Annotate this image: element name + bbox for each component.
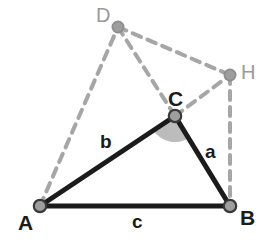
vertex-label-c: C xyxy=(168,88,183,109)
vertex-label-a: A xyxy=(18,212,33,233)
side-label-b: b xyxy=(100,132,112,151)
figure-canvas xyxy=(0,0,269,239)
vertex-label-d: D xyxy=(96,5,110,25)
geometry-diagram: A B C D H b a c xyxy=(0,0,269,239)
vertex-label-b: B xyxy=(240,207,255,228)
side-label-c: c xyxy=(132,212,143,231)
dashed-edge-d-h xyxy=(118,27,230,75)
solid-edges-group xyxy=(40,116,230,206)
side-label-a: a xyxy=(205,142,216,161)
dashed-edges-group xyxy=(40,27,230,206)
vertex-dot-h xyxy=(224,69,235,80)
vertex-dot-a xyxy=(34,200,46,212)
dashed-edge-c-h xyxy=(175,75,230,116)
vertex-dots-group xyxy=(34,21,236,212)
vertex-label-h: H xyxy=(241,62,255,82)
solid-edge-c-b xyxy=(175,116,230,206)
vertex-dot-d xyxy=(112,21,123,32)
vertex-dot-b xyxy=(224,200,236,212)
vertex-dot-c xyxy=(169,110,181,122)
